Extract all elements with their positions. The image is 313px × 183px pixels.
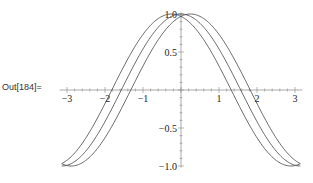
x-tick-label: −3 (62, 93, 73, 104)
x-tick-label: 2 (255, 93, 260, 104)
x-tick-label: −1 (138, 93, 149, 104)
axes: −3−2−11231.00.5−0.5−1.0 (60, 9, 303, 172)
x-tick-label: 3 (293, 93, 298, 104)
x-tick-label: −2 (100, 93, 111, 104)
y-tick-label: −0.5 (159, 123, 177, 134)
y-tick-label: −1.0 (159, 161, 177, 172)
x-tick-label: 1 (217, 93, 222, 104)
plot: −3−2−11231.00.5−0.5−1.0 (0, 0, 313, 183)
y-tick-label: 0.5 (165, 47, 178, 58)
